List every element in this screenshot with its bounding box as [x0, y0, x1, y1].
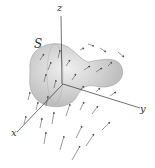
z-axis-label: z: [57, 3, 62, 13]
surface-s: [30, 44, 123, 107]
vector-field-diagram: [0, 0, 155, 168]
x-axis-label: x: [11, 128, 17, 138]
y-axis-label: y: [140, 104, 146, 114]
surface-label: S: [34, 38, 42, 50]
